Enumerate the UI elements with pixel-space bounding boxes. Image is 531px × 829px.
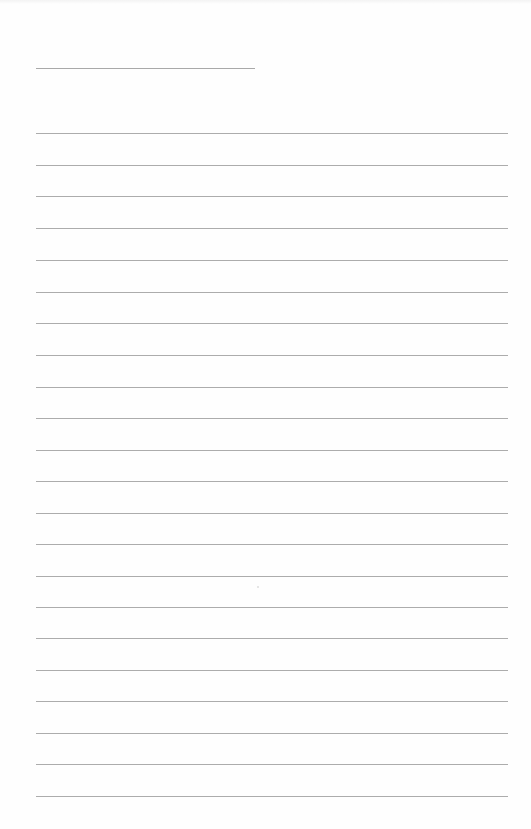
- ruled-line: [36, 418, 508, 419]
- header-name-line: [36, 68, 255, 69]
- ruled-line: [36, 576, 508, 577]
- top-edge-bleed: [0, 0, 531, 4]
- ruled-line: [36, 228, 508, 229]
- ruled-line: [36, 764, 508, 765]
- ruled-line: [36, 165, 508, 166]
- ruled-line: [36, 196, 508, 197]
- ruled-line: [36, 701, 508, 702]
- ruled-line: [36, 133, 508, 134]
- ruled-line: [36, 260, 508, 261]
- ruled-line: [36, 355, 508, 356]
- lined-paper-page: [0, 0, 531, 829]
- ruled-line: [36, 733, 508, 734]
- ruled-line: [36, 292, 508, 293]
- ruled-line: [36, 607, 508, 608]
- ruled-line: [36, 638, 508, 639]
- ruled-line: [36, 450, 508, 451]
- ruled-line: [36, 323, 508, 324]
- ruled-line: [36, 387, 508, 388]
- paper-speck: [257, 586, 259, 588]
- ruled-line: [36, 670, 508, 671]
- ruled-line: [36, 481, 508, 482]
- ruled-line: [36, 796, 508, 797]
- ruled-line: [36, 513, 508, 514]
- ruled-line: [36, 544, 508, 545]
